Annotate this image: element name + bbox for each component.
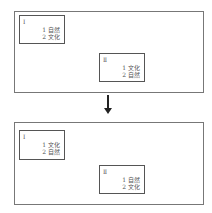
box-label: Ⅰ [23,18,25,25]
list-item: 2 文化 [122,183,140,190]
box-label: Ⅱ [103,168,107,175]
list-item: 1 文化 [122,64,140,71]
list-item: 2 自然 [122,71,140,78]
box-label: Ⅱ [103,56,107,63]
before-box-1: Ⅰ 1 自然2 文化 [19,15,65,44]
box-label: Ⅰ [23,133,25,140]
before-box-2: Ⅱ 1 文化2 自然 [99,53,145,82]
list-item: 1 文化 [42,141,60,148]
arrow-down-icon [107,95,109,109]
after-box-1: Ⅰ 1 文化2 自然 [19,130,65,160]
list-item: 2 文化 [42,33,60,40]
list-item: 1 自然 [122,176,140,183]
list-item: 1 自然 [42,26,60,33]
arrow-head-icon [104,108,112,114]
after-box-2: Ⅱ 1 自然2 文化 [99,165,145,194]
list-item: 2 自然 [42,148,60,155]
